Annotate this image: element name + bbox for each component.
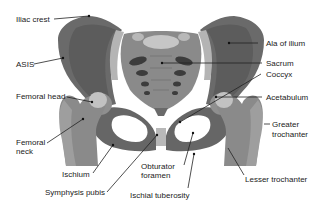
label-coccyx: Coccyx <box>266 70 292 79</box>
label-femoral-head: Femoral head <box>16 92 65 101</box>
label-greater-trochanter-line2: trochanter <box>272 130 308 139</box>
label-obturator-foramen-line2: foramen <box>141 171 170 180</box>
label-acetabulum: Acetabulum <box>266 93 308 102</box>
left-femoral-head <box>89 92 107 108</box>
label-ischium: Ischium <box>62 170 90 179</box>
label-sacrum: Sacrum <box>266 59 294 68</box>
label-iliac-crest: Iliac crest <box>16 15 50 24</box>
label-obturator-foramen-line1: Obturator <box>141 162 175 171</box>
pelvis-diagram: Iliac crest ASIS Femoral head Femoral ne… <box>0 0 322 211</box>
label-lesser-trochanter: Lesser trochanter <box>245 175 307 184</box>
label-ala-of-ilium: Ala of ilium <box>266 39 305 48</box>
label-symphysis-pubis: Symphysis pubis <box>45 188 105 197</box>
label-asis: ASIS <box>16 60 34 69</box>
label-femoral-neck-line1: Femoral <box>16 138 45 147</box>
coccyx-shape <box>154 108 168 116</box>
label-greater-trochanter-line1: Greater <box>272 120 299 129</box>
label-femoral-neck-line2: neck <box>16 147 33 156</box>
symphysis-shape <box>156 128 166 146</box>
label-ischial-tuberosity: Ischial tuberosity <box>130 191 190 200</box>
